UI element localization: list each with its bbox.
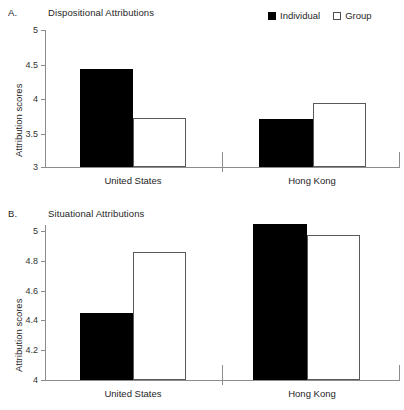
bar-a-united-states-group [133,118,186,167]
panel-a-category-separator [222,152,223,168]
bar-a-united-states-individual [80,69,133,167]
panel-b-ytick-4 [41,380,45,381]
panel-b-ytick-label-4_4: 4.4 [16,315,38,325]
panel-b-xtick-mid [222,380,223,385]
panel-a-right-boundary [399,152,400,168]
panel-situational-attributions: B. Situational Attributions Attribution … [0,200,404,410]
panel-a-ytick-4 [41,99,45,100]
panel-b-ytick-4_2 [41,350,45,351]
panel-b-category-label-hong-kong: Hong Kong [288,388,336,399]
panel-b-ytick-5 [41,231,45,232]
panel-a-ytick-5 [41,30,45,31]
panel-b-category-separator [222,365,223,381]
panel-b-y-axis-line [45,225,46,380]
bar-a-hong-kong-group [313,103,366,167]
panel-a-ytick-3_5 [41,134,45,135]
panel-a-ytick-3 [41,167,45,168]
panel-b-plot-area: 5 4.8 4.6 4.4 4.2 4 United States Hong K… [0,200,404,410]
panel-dispositional-attributions: A. Dispositional Attributions Individual… [0,0,404,200]
bar-b-united-states-individual [80,313,133,380]
panel-a-ytick-label-3_5: 3.5 [20,129,38,139]
bar-b-hong-kong-group [307,235,360,381]
panel-b-ytick-label-4: 4 [20,375,38,385]
bar-a-hong-kong-individual [259,119,313,167]
panel-b-ytick-label-4_8: 4.8 [16,256,38,266]
panel-a-xtick-mid [222,167,223,172]
panel-a-plot-area: 5 4.5 4 3.5 3 United States Hong Kong [0,0,404,200]
panel-a-ytick-label-3: 3 [20,162,38,172]
panel-b-ytick-label-5: 5 [20,226,38,236]
panel-b-ytick-4_8 [41,261,45,262]
panel-a-category-label-united-states: United States [104,175,161,186]
panel-b-ytick-label-4_2: 4.2 [16,345,38,355]
panel-a-ytick-4_5 [41,65,45,66]
panel-a-ytick-label-4: 4 [20,94,38,104]
panel-b-ytick-4_4 [41,320,45,321]
panel-b-ytick-4_6 [41,291,45,292]
panel-a-y-axis-line [45,30,46,168]
bar-b-united-states-group [133,252,186,380]
panel-a-category-label-hong-kong: Hong Kong [288,175,336,186]
bar-b-hong-kong-individual [253,224,307,380]
panel-a-ytick-label-5: 5 [20,25,38,35]
panel-b-ytick-label-4_6: 4.6 [16,286,38,296]
panel-a-ytick-label-4_5: 4.5 [20,60,38,70]
panel-b-right-boundary [399,365,400,381]
panel-b-category-label-united-states: United States [104,388,161,399]
